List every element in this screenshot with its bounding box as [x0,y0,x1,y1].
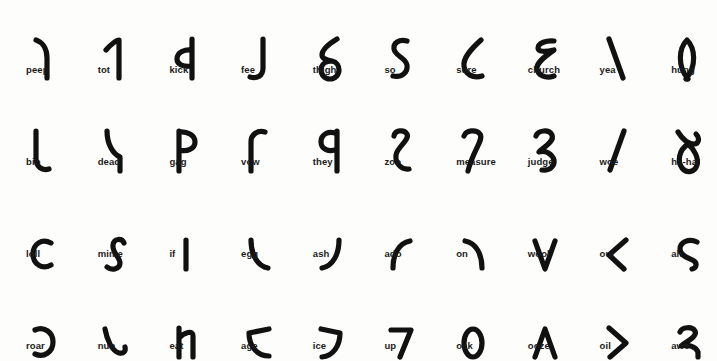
ha-ha-glyph [667,128,711,174]
glyph-label: they [313,156,333,167]
glyph-label: ha-ha [671,156,697,167]
glyph-label: dead [98,156,121,167]
glyph-cell-mime[interactable]: mime [72,204,144,274]
glyph-cell-wool[interactable]: wool [502,204,574,274]
chart-row-deep-consonants: bib dead gag vow they [0,104,717,174]
glyph-cell-zoo[interactable]: zoo [358,104,430,174]
glyph-label: oak [456,340,473,351]
glyph-cell-awe[interactable]: awe [645,296,717,361]
glyph-cell-so[interactable]: so [358,12,430,82]
glyph-label: sure [456,64,476,75]
glyph-label: awe [671,340,689,351]
glyph-label: age [241,340,258,351]
glyph-cell-ha-ha[interactable]: ha-ha [645,104,717,174]
glyph-cell-gag[interactable]: gag [143,104,215,174]
glyph-cell-oil[interactable]: oil [574,296,646,361]
glyph-label: ice [313,340,327,351]
glyph-cell-measure[interactable]: measure [430,104,502,174]
glyph-cell-tot[interactable]: tot [72,12,144,82]
church-glyph [524,36,568,82]
glyph-cell-vow[interactable]: vow [215,104,287,174]
thigh-glyph [309,36,353,82]
they-glyph [309,128,353,174]
glyph-label: zoo [384,156,401,167]
glyph-cell-ooze[interactable]: ooze [502,296,574,361]
glyph-label: hung [671,64,695,75]
glyph-cell-age[interactable]: age [215,296,287,361]
glyph-cell-woe[interactable]: woe [574,104,646,174]
so-glyph [380,36,424,82]
glyph-cell-thigh[interactable]: thigh [287,12,359,82]
glyph-label: bib [26,156,41,167]
glyph-label: fee [241,64,255,75]
glyph-label: mime [98,248,123,259]
woe-glyph [596,128,640,174]
glyph-cell-dead[interactable]: dead [72,104,144,174]
dead-glyph [94,128,138,174]
glyph-label: judge [528,156,554,167]
glyph-label: eat [169,340,183,351]
glyph-cell-ah[interactable]: ah [645,204,717,274]
glyph-cell-roar[interactable]: roar [0,296,72,361]
glyph-label: ah [671,248,682,259]
glyph-label: up [384,340,396,351]
glyph-cell-loll[interactable]: loll [0,204,72,274]
glyph-cell-fee[interactable]: fee [215,12,287,82]
glyph-label: on [456,248,468,259]
yea-glyph [596,36,640,82]
glyph-cell-if[interactable]: if [143,204,215,274]
judge-glyph [524,128,568,174]
glyph-label: ooze [528,340,550,351]
glyph-cell-yea[interactable]: yea [574,12,646,82]
glyph-label: kick [169,64,188,75]
glyph-label: thigh [313,64,337,75]
glyph-cell-ado[interactable]: ado [358,204,430,274]
bib-glyph [22,128,66,174]
glyph-cell-up[interactable]: up [358,296,430,361]
glyph-cell-bib[interactable]: bib [0,104,72,174]
glyph-label: peep [26,64,49,75]
glyph-cell-hung[interactable]: hung [645,12,717,82]
glyph-cell-eat[interactable]: eat [143,296,215,361]
glyph-cell-judge[interactable]: judge [502,104,574,174]
fee-glyph [237,36,281,82]
glyph-label: oil [600,340,611,351]
glyph-cell-out[interactable]: out [574,204,646,274]
measure-glyph [452,128,496,174]
glyph-label: tot [98,64,110,75]
glyph-cell-egg[interactable]: egg [215,204,287,274]
glyph-label: if [169,248,175,259]
sure-glyph [452,36,496,82]
glyph-cell-nun[interactable]: nun [72,296,144,361]
gag-glyph [165,128,209,174]
glyph-label: loll [26,248,40,259]
glyph-cell-ice[interactable]: ice [287,296,359,361]
vow-glyph [237,128,281,174]
glyph-cell-sure[interactable]: sure [430,12,502,82]
shavian-alphabet-chart: peep tot kick fee thigh [0,0,717,361]
glyph-label: yea [600,64,616,75]
glyph-label: ado [384,248,401,259]
glyph-cell-they[interactable]: they [287,104,359,174]
glyph-label: ash [313,248,330,259]
hung-glyph [667,36,711,82]
chart-row-tall-consonants: peep tot kick fee thigh [0,12,717,82]
glyph-label: vow [241,156,260,167]
peep-glyph [22,36,66,82]
glyph-cell-ash[interactable]: ash [287,204,359,274]
glyph-cell-kick[interactable]: kick [143,12,215,82]
glyph-label: measure [456,156,496,167]
glyph-label: church [528,64,560,75]
zoo-glyph [380,128,424,174]
glyph-label: woe [600,156,619,167]
glyph-label: egg [241,248,258,259]
glyph-cell-peep[interactable]: peep [0,12,72,82]
glyph-label: out [600,248,615,259]
kick-glyph [165,36,209,82]
glyph-label: roar [26,340,45,351]
glyph-cell-church[interactable]: church [502,12,574,82]
glyph-label: so [384,64,395,75]
glyph-label: wool [528,248,550,259]
glyph-cell-on[interactable]: on [430,204,502,274]
glyph-cell-oak[interactable]: oak [430,296,502,361]
